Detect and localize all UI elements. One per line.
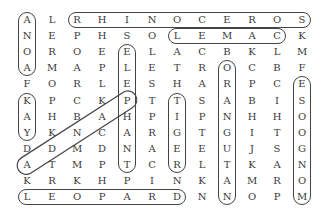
letter-cell[interactable]: P xyxy=(67,29,87,43)
letter-cell[interactable]: D xyxy=(92,142,112,156)
letter-cell[interactable]: N xyxy=(67,126,87,140)
letter-cell[interactable]: R xyxy=(192,61,212,75)
letter-cell[interactable]: P xyxy=(242,77,262,91)
letter-cell[interactable]: H xyxy=(242,110,262,124)
letter-cell[interactable]: A xyxy=(267,158,287,172)
letter-cell[interactable]: E xyxy=(42,29,62,43)
letter-cell[interactable]: K xyxy=(17,94,37,108)
letter-cell[interactable]: P xyxy=(192,110,212,124)
letter-cell[interactable]: R xyxy=(67,13,87,27)
letter-cell[interactable]: T xyxy=(142,94,162,108)
letter-cell[interactable]: U xyxy=(217,142,237,156)
letter-cell[interactable]: O xyxy=(67,45,87,59)
letter-cell[interactable]: A xyxy=(117,126,137,140)
letter-cell[interactable]: N xyxy=(167,174,187,188)
letter-cell[interactable]: O xyxy=(242,190,262,204)
letter-cell[interactable]: B xyxy=(267,61,287,75)
letter-cell[interactable]: A xyxy=(192,77,212,91)
letter-cell[interactable]: A xyxy=(92,110,112,124)
letter-cell[interactable]: L xyxy=(167,29,187,43)
letter-cell[interactable]: L xyxy=(192,158,212,172)
letter-cell[interactable]: N xyxy=(292,158,312,172)
letter-cell[interactable]: A xyxy=(17,158,37,172)
letter-cell[interactable]: G xyxy=(217,126,237,140)
letter-cell[interactable]: A xyxy=(17,61,37,75)
letter-cell[interactable]: R xyxy=(42,174,62,188)
letter-cell[interactable]: P xyxy=(92,158,112,172)
letter-cell[interactable]: H xyxy=(92,29,112,43)
letter-cell[interactable]: O xyxy=(142,29,162,43)
letter-cell[interactable]: E xyxy=(42,190,62,204)
letter-cell[interactable]: O xyxy=(67,190,87,204)
letter-cell[interactable]: E xyxy=(192,29,212,43)
letter-cell[interactable]: C xyxy=(267,77,287,91)
letter-cell[interactable]: L xyxy=(42,13,62,27)
letter-cell[interactable]: B xyxy=(242,94,262,108)
letter-cell[interactable]: P xyxy=(267,190,287,204)
letter-cell[interactable]: B xyxy=(67,110,87,124)
letter-cell[interactable]: L xyxy=(92,77,112,91)
letter-cell[interactable]: S xyxy=(117,29,137,43)
letter-cell[interactable]: O xyxy=(217,61,237,75)
letter-cell[interactable]: A xyxy=(17,13,37,27)
letter-cell[interactable]: F xyxy=(17,77,37,91)
letter-cell[interactable]: P xyxy=(92,61,112,75)
letter-cell[interactable]: T xyxy=(167,61,187,75)
letter-cell[interactable]: M xyxy=(242,174,262,188)
letter-cell[interactable]: B xyxy=(217,45,237,59)
letter-cell[interactable]: K xyxy=(17,174,37,188)
letter-cell[interactable]: C xyxy=(67,94,87,108)
letter-cell[interactable]: C xyxy=(192,45,212,59)
letter-cell[interactable]: S xyxy=(142,77,162,91)
letter-cell[interactable]: A xyxy=(117,190,137,204)
letter-cell[interactable]: E xyxy=(167,142,187,156)
letter-cell[interactable]: H xyxy=(92,13,112,27)
letter-cell[interactable]: R xyxy=(167,158,187,172)
letter-cell[interactable]: P xyxy=(142,110,162,124)
letter-cell[interactable]: K xyxy=(42,126,62,140)
letter-cell[interactable]: A xyxy=(142,142,162,156)
letter-cell[interactable]: K xyxy=(242,158,262,172)
letter-cell[interactable]: N xyxy=(217,190,237,204)
letter-cell[interactable]: S xyxy=(192,94,212,108)
letter-cell[interactable]: M xyxy=(67,158,87,172)
letter-cell[interactable]: K xyxy=(192,174,212,188)
letter-cell[interactable]: A xyxy=(167,45,187,59)
letter-cell[interactable]: T xyxy=(167,94,187,108)
letter-cell[interactable]: R xyxy=(267,174,287,188)
letter-cell[interactable]: N xyxy=(117,142,137,156)
letter-cell[interactable]: I xyxy=(242,126,262,140)
letter-cell[interactable]: R xyxy=(217,77,237,91)
letter-cell[interactable]: E xyxy=(142,61,162,75)
letter-cell[interactable]: I xyxy=(142,174,162,188)
letter-cell[interactable]: S xyxy=(292,94,312,108)
letter-cell[interactable]: I xyxy=(267,94,287,108)
letter-cell[interactable]: P xyxy=(117,94,137,108)
letter-cell[interactable]: P xyxy=(42,94,62,108)
letter-cell[interactable]: R xyxy=(142,190,162,204)
letter-cell[interactable]: E xyxy=(217,13,237,27)
letter-cell[interactable]: E xyxy=(117,45,137,59)
letter-cell[interactable]: H xyxy=(267,110,287,124)
letter-cell[interactable]: Y xyxy=(17,126,37,140)
letter-cell[interactable]: P xyxy=(117,174,137,188)
letter-cell[interactable]: P xyxy=(92,190,112,204)
letter-cell[interactable]: G xyxy=(292,142,312,156)
letter-cell[interactable]: T xyxy=(117,158,137,172)
letter-cell[interactable]: O xyxy=(292,174,312,188)
letter-cell[interactable]: R xyxy=(67,77,87,91)
letter-cell[interactable]: E xyxy=(92,45,112,59)
letter-cell[interactable]: K xyxy=(292,29,312,43)
letter-cell[interactable]: T xyxy=(192,126,212,140)
letter-cell[interactable]: N xyxy=(217,110,237,124)
letter-cell[interactable]: L xyxy=(117,61,137,75)
letter-cell[interactable]: D xyxy=(17,142,37,156)
letter-cell[interactable]: M xyxy=(292,45,312,59)
letter-cell[interactable]: K xyxy=(242,45,262,59)
letter-cell[interactable]: S xyxy=(267,142,287,156)
letter-cell[interactable]: E xyxy=(117,77,137,91)
letter-cell[interactable]: O xyxy=(17,45,37,59)
letter-cell[interactable]: E xyxy=(292,77,312,91)
letter-cell[interactable]: H xyxy=(42,110,62,124)
letter-cell[interactable]: M xyxy=(67,142,87,156)
